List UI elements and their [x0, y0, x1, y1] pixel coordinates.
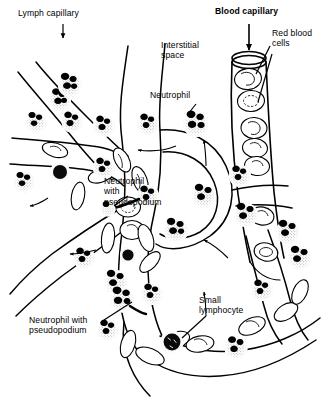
migration-arrow [204, 140, 206, 166]
diagram-canvas [0, 0, 326, 412]
migration-arrow [30, 198, 48, 206]
small-lymphocyte-cell [120, 247, 136, 263]
neutrophil-cell [141, 283, 163, 305]
neutrophil-cell [276, 220, 300, 244]
neutrophil-with-pseudopodium [110, 286, 147, 314]
neutrophil-cell [14, 172, 35, 193]
neutrophil-cell [229, 165, 251, 187]
red-blood-cell [117, 329, 138, 360]
neutrophil-cell [225, 336, 248, 359]
label-neutrophil-with-pseudopodium-lower: Neutrophil with pseudopodium [29, 315, 87, 336]
migration-arrow [204, 240, 228, 258]
label-lymph-capillary: Lymph capillary [18, 8, 79, 18]
red-blood-cell [133, 343, 166, 368]
neutrophil-cell [73, 247, 95, 269]
label-small-lymphocyte: Small lymphocyte [199, 295, 243, 316]
red-blood-cell [136, 248, 163, 276]
neutrophil-cell [183, 110, 209, 137]
neutrophil-cell [234, 203, 258, 227]
small-lymphocyte-leader [182, 316, 206, 338]
neutrophil-cell [164, 218, 189, 243]
neutrophil-cell [93, 115, 115, 137]
neutrophil-cell [62, 112, 83, 133]
label-neutrophil: Neutrophil [150, 90, 190, 100]
small-lymphocyte-cell [161, 331, 184, 354]
neutrophil-cell [192, 184, 216, 208]
neutrophil-cell [97, 319, 119, 341]
neutrophil-cell [251, 279, 273, 301]
red-blood-cell [252, 240, 280, 263]
neutrophil-cell [58, 73, 82, 97]
small-lymphocyte-cell [50, 162, 70, 182]
red-blood-cell [69, 181, 87, 211]
migration-arrow [138, 146, 176, 151]
red-blood-cell [240, 117, 267, 140]
label-blood-capillary: Blood capillary [215, 6, 278, 16]
red-blood-cell [236, 313, 268, 339]
label-neutrophil-with-pseudopodium-upper: Neutrophil with pseudopodium [104, 176, 162, 207]
neutrophil-cell [288, 246, 312, 270]
neutrophil-cell [26, 112, 47, 133]
lymphatic-migration-diagram: Lymph capillary Blood capillary Red bloo… [0, 0, 326, 412]
red-blood-cell [242, 137, 269, 159]
neutrophil-cell [137, 113, 159, 135]
label-red-blood-cells: Red blood cells [272, 28, 312, 49]
label-interstitial-space: Interstitial space [161, 40, 199, 61]
red-blood-cell [100, 222, 116, 253]
